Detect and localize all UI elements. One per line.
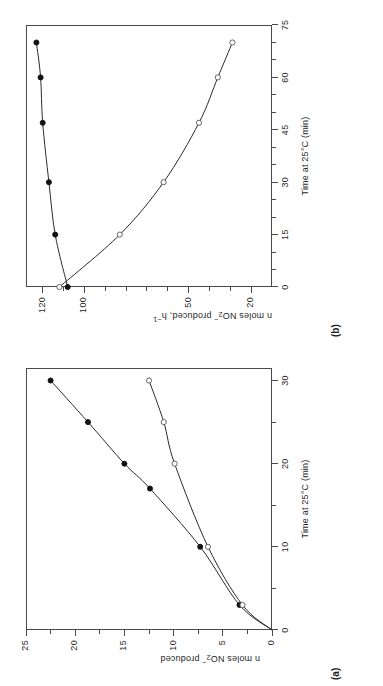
- y-tick-label: 20: [69, 640, 79, 686]
- y-tick: [84, 287, 85, 293]
- x-tick: [272, 252, 276, 253]
- series-line-open-circles: [59, 43, 232, 288]
- data-point-filled: [122, 461, 127, 466]
- data-point-open: [196, 120, 201, 125]
- y-tick: [167, 287, 168, 291]
- y-tick: [149, 630, 150, 634]
- data-point-open: [215, 75, 220, 80]
- series-line-open-circles: [149, 381, 272, 631]
- y-tick: [251, 287, 252, 293]
- data-point-open: [57, 284, 62, 289]
- panel-a-tag: (a): [330, 668, 341, 680]
- y-tick: [26, 630, 27, 636]
- panel-a-y-axis-label: n moles NO2− produced: [160, 654, 260, 666]
- data-point-filled: [65, 285, 70, 290]
- x-tick-label: 30: [280, 172, 290, 192]
- y-tick: [230, 287, 231, 291]
- data-point-open: [146, 378, 151, 383]
- y-tick: [198, 630, 199, 634]
- data-point-open: [117, 232, 122, 237]
- x-tick: [272, 630, 278, 631]
- y-tick: [126, 287, 127, 291]
- x-tick-label: 75: [280, 15, 290, 35]
- y-tick: [50, 630, 51, 634]
- x-tick-label: 20: [280, 454, 290, 474]
- x-tick: [272, 546, 278, 547]
- data-point-filled: [48, 378, 53, 383]
- x-tick: [272, 42, 276, 43]
- y-tick-label: 0: [266, 640, 276, 686]
- series-line-filled-circles: [51, 381, 272, 631]
- x-tick: [272, 234, 278, 235]
- y-tick: [188, 287, 189, 293]
- x-tick-label: 45: [280, 120, 290, 140]
- data-point-open: [240, 602, 245, 607]
- x-tick: [272, 59, 276, 60]
- panel-b-x-axis-label: Time at 25°C (min): [300, 25, 310, 287]
- data-point-filled: [46, 180, 51, 185]
- x-tick-label: 15: [280, 225, 290, 245]
- y-tick: [75, 630, 76, 636]
- x-tick: [272, 217, 276, 218]
- x-tick: [272, 269, 276, 270]
- x-tick: [272, 94, 276, 95]
- x-tick-label: 30: [280, 370, 290, 390]
- panel-b-tag: (b): [330, 324, 341, 337]
- x-tick-label: 10: [280, 537, 290, 557]
- y-tick-label: 15: [118, 640, 128, 686]
- y-tick: [99, 630, 100, 634]
- data-point-filled: [198, 544, 203, 549]
- x-tick: [272, 287, 278, 288]
- x-tick: [272, 25, 278, 26]
- data-point-filled: [53, 232, 58, 237]
- x-tick: [272, 147, 276, 148]
- x-tick-label: 60: [280, 67, 290, 87]
- x-tick: [272, 199, 276, 200]
- panel-b-figure: 01530456075 2050100120 Time at 25°C (min…: [0, 0, 383, 343]
- panel-b-data-layer: [0, 0, 383, 343]
- x-tick: [272, 129, 278, 130]
- data-point-filled: [148, 486, 153, 491]
- data-point-open: [161, 420, 166, 425]
- data-point-filled: [40, 120, 45, 125]
- y-tick: [247, 630, 248, 634]
- y-tick-label: 25: [20, 640, 30, 686]
- data-point-open: [205, 544, 210, 549]
- x-tick: [272, 463, 278, 464]
- panel-a-data-layer: [0, 343, 383, 686]
- x-tick: [272, 77, 278, 78]
- x-tick: [272, 182, 278, 183]
- y-tick: [209, 287, 210, 291]
- panel-a-x-axis-label: Time at 25°C (min): [300, 368, 310, 630]
- y-tick: [63, 287, 64, 291]
- figure-sheet: 01530456075 2050100120 Time at 25°C (min…: [0, 0, 383, 686]
- x-tick: [272, 422, 276, 423]
- data-point-open: [172, 461, 177, 466]
- y-tick-label: 120: [37, 297, 47, 343]
- y-tick: [272, 630, 273, 636]
- panel-a-figure: 0102030 0510152025 Time at 25°C (min) n …: [0, 343, 383, 686]
- y-tick: [146, 287, 147, 291]
- x-tick: [272, 164, 276, 165]
- y-tick-label: 100: [78, 297, 88, 343]
- data-point-filled: [38, 75, 43, 80]
- data-point-filled: [86, 420, 91, 425]
- y-tick: [222, 630, 223, 636]
- x-tick: [272, 505, 276, 506]
- panel-a: 0102030 0510152025 Time at 25°C (min) n …: [0, 343, 383, 686]
- panel-b: 01530456075 2050100120 Time at 25°C (min…: [0, 0, 383, 343]
- x-tick: [272, 588, 276, 589]
- y-tick: [124, 630, 125, 636]
- x-tick: [272, 380, 278, 381]
- y-tick: [105, 287, 106, 291]
- data-point-open: [230, 40, 235, 45]
- y-tick: [42, 287, 43, 293]
- panel-b-y-axis-label: n moles NO2− produced, h−1: [153, 311, 272, 323]
- x-tick: [272, 112, 276, 113]
- data-point-filled: [34, 40, 39, 45]
- y-tick: [173, 630, 174, 636]
- x-tick-label: 0: [280, 277, 290, 297]
- x-tick-label: 0: [280, 620, 290, 640]
- data-point-open: [161, 180, 166, 185]
